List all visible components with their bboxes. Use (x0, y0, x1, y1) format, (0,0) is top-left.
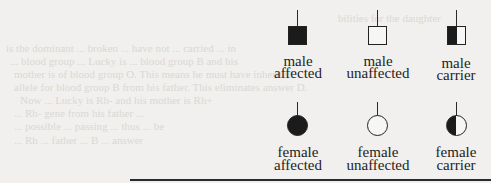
bleed-line: ... Rh- gene from his father ... (14, 107, 144, 120)
bleed-line: Now ... Lucky is Rh- and his mother is R… (20, 94, 213, 107)
filled-circle-icon (287, 115, 308, 136)
half-filled-circle-icon (446, 115, 467, 136)
stem-line (297, 102, 298, 116)
bleed-line: ... possible ... passing ... thus ... be (14, 120, 164, 133)
bleed-line: allele for blood group B from his father… (14, 81, 307, 94)
legend-label-line2: carrier (411, 69, 491, 82)
legend-label-line2: affected (253, 67, 343, 80)
legend-label-line2: carrier (411, 159, 491, 172)
stem-line (377, 102, 378, 116)
empty-circle-icon (367, 115, 388, 136)
stem-line (456, 102, 457, 116)
stem-line (297, 10, 298, 27)
half-filled-square-icon (447, 26, 466, 45)
bleed-line: is the dominant ... broken ... have not … (6, 42, 236, 55)
bleed-line: ... Rh ... father ... B ... answer (14, 134, 143, 147)
empty-square-icon (368, 26, 387, 45)
bleed-line: ... blood group ... Lucky is ... blood g… (10, 55, 238, 68)
legend-label-line2: unaffected (333, 159, 423, 172)
stem-line (377, 10, 378, 27)
legend-label-line2: unaffected (333, 67, 423, 80)
bottom-rule-divider (130, 179, 491, 181)
filled-square-icon (288, 26, 307, 45)
bleed-line: mother is of blood group O. This means h… (14, 68, 292, 81)
bleed-line: bilities for the daughter (338, 12, 441, 25)
legend-label-line2: affected (253, 159, 343, 172)
stem-line (456, 10, 457, 27)
